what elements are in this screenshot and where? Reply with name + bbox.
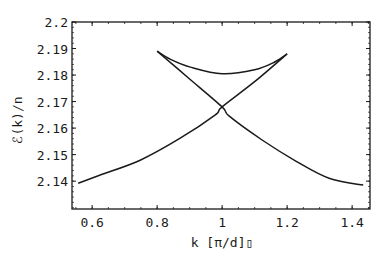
tick-labels: 0.60.811.21.42.142.152.162.172.182.192.2 xyxy=(37,15,364,230)
y-tick-label: 2.15 xyxy=(37,148,68,163)
y-tick-label: 2.17 xyxy=(37,95,68,110)
plot-frame xyxy=(72,22,370,209)
y-tick-label: 2.2 xyxy=(45,15,68,30)
y-axis-label: ℰ(k)/n xyxy=(10,96,25,143)
x-tick-label: 0.8 xyxy=(145,215,168,230)
x-axis-label: k [π/d]▯ xyxy=(191,235,254,250)
curve-branch-falling xyxy=(157,51,363,185)
x-tick-label: 1 xyxy=(218,215,226,230)
x-tick-label: 0.6 xyxy=(80,215,103,230)
tick-marks xyxy=(72,22,370,209)
y-tick-label: 2.18 xyxy=(37,68,68,83)
x-tick-label: 1.2 xyxy=(275,215,298,230)
y-tick-label: 2.14 xyxy=(37,174,68,189)
chart: 0.60.811.21.42.142.152.162.172.182.192.2… xyxy=(0,0,383,261)
y-tick-label: 2.16 xyxy=(37,121,68,136)
data-curves xyxy=(78,51,363,185)
y-tick-label: 2.19 xyxy=(37,42,68,57)
x-tick-label: 1.4 xyxy=(340,215,364,230)
